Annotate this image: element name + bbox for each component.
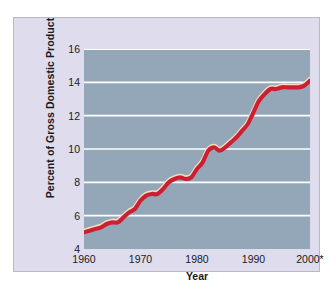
gridlines [84,49,310,216]
plot-svg [84,49,310,249]
y-axis-tick-labels: 46810121416 [54,49,80,249]
y-tick-label: 12 [56,111,80,121]
x-axis-tick-labels: 19601970198019902000* [84,253,310,267]
y-tick-label: 6 [56,211,80,221]
series-line [84,81,310,233]
y-tick-label: 10 [56,144,80,154]
y-tick-label: 8 [56,177,80,187]
data-series-layer [84,80,310,233]
x-tick-label: 2000* [286,253,333,265]
chart-panel: Percent of Gross Domestic Product 468101… [13,17,320,272]
x-tick-label: 1970 [117,253,165,265]
series-line-highlight [84,80,310,232]
x-tick-label: 1990 [230,253,278,265]
y-tick-label: 16 [56,44,80,54]
x-axis-title: Year [84,270,310,282]
x-tick-label: 1960 [60,253,108,265]
y-tick-label: 14 [56,77,80,87]
plot-area [84,49,310,249]
x-tick-label: 1980 [173,253,221,265]
chart-figure: Percent of Gross Domestic Product 468101… [0,0,333,286]
